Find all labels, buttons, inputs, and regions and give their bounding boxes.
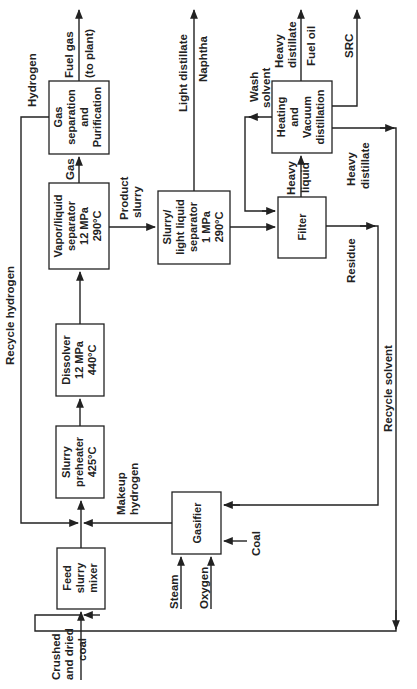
svg-text:Product: Product: [118, 176, 130, 220]
residue-label: Residue: [345, 238, 357, 283]
wash-solvent-label: Wash solvent: [248, 68, 272, 108]
heavy-distillate-top-label: Heavy distillate: [273, 21, 298, 68]
recycle-solvent-label: Recycle solvent: [382, 345, 394, 432]
svg-text:Feed: Feed: [61, 565, 73, 591]
svg-text:Recycle solvent: Recycle solvent: [382, 345, 394, 432]
wash-solvent-line: [245, 117, 275, 211]
svg-text:Hydrogen: Hydrogen: [26, 53, 38, 107]
svg-text:mixer: mixer: [87, 563, 99, 593]
svg-text:distillation: distillation: [314, 89, 326, 144]
svg-text:distillate: distillate: [286, 21, 298, 68]
svg-text:Filter: Filter: [296, 213, 308, 241]
svg-text:separator: separator: [187, 201, 199, 252]
svg-text:and: and: [288, 107, 300, 127]
hydrogen-label: Hydrogen: [26, 53, 38, 107]
svg-text:440°C: 440°C: [86, 345, 98, 376]
svg-text:Fuel gas: Fuel gas: [63, 31, 75, 78]
svg-text:Naphtha: Naphtha: [197, 35, 209, 82]
light-distillate-label: Light distillate: [177, 34, 189, 112]
svg-text:Oxygen: Oxygen: [198, 567, 210, 609]
svg-text:coal: coal: [76, 638, 88, 661]
svg-text:light liquid: light liquid: [174, 199, 186, 255]
svg-text:Vacuum: Vacuum: [301, 96, 313, 138]
distillation-label: Heating and Vacuum distillation: [275, 89, 326, 144]
svg-text:Steam: Steam: [168, 574, 180, 609]
svg-text:and: and: [78, 107, 90, 127]
svg-text:Gas: Gas: [52, 107, 64, 128]
svg-text:12 MPa: 12 MPa: [73, 340, 85, 379]
svg-text:slurry: slurry: [74, 562, 86, 593]
svg-text:Purification: Purification: [91, 86, 103, 147]
svg-text:290°C: 290°C: [213, 212, 225, 243]
svg-text:Wash: Wash: [248, 72, 260, 102]
svg-text:liquid: liquid: [299, 162, 311, 193]
gasifier-coal-label: Coal: [250, 531, 262, 556]
makeup-hydrogen-label: Makeup hydrogen: [115, 463, 140, 515]
svg-text:Slurry/: Slurry/: [161, 210, 173, 245]
coal-feed-label: Crushed and dried coal: [50, 628, 88, 680]
svg-text:Gas: Gas: [64, 158, 76, 180]
svg-text:290°C: 290°C: [91, 211, 103, 242]
svg-text:Heavy: Heavy: [285, 161, 297, 195]
heavy-distillate-side-label: Heavy distillate: [345, 142, 371, 189]
naphtha-label: Naphtha: [197, 35, 209, 82]
svg-text:SRC: SRC: [343, 34, 355, 58]
feed-slurry-mixer-label: Feed slurry mixer: [61, 562, 99, 593]
src-label: SRC: [343, 34, 355, 58]
gas-label: Gas: [64, 158, 76, 180]
svg-text:1 MPa: 1 MPa: [200, 210, 212, 243]
svg-text:Slurry: Slurry: [60, 445, 72, 478]
svg-text:Coal: Coal: [250, 531, 262, 556]
svg-text:Vapor/liquid: Vapor/liquid: [52, 195, 64, 258]
svg-text:hydrogen: hydrogen: [128, 463, 140, 515]
svg-text:Gasifier: Gasifier: [191, 502, 203, 544]
svg-text:Residue: Residue: [345, 238, 357, 283]
oxygen-label: Oxygen: [198, 567, 210, 609]
svg-text:Makeup: Makeup: [115, 472, 127, 515]
svg-text:solvent: solvent: [260, 68, 272, 108]
svg-text:Recycle hydrogen: Recycle hydrogen: [4, 266, 16, 365]
heavy-liquid-label: Heavy liquid: [285, 161, 311, 195]
process-flow-diagram: Feed slurry mixer Slurry preheater 425°C…: [0, 0, 417, 689]
svg-text:425°C: 425°C: [86, 447, 98, 478]
svg-text:Light distillate: Light distillate: [177, 34, 189, 112]
svg-text:slurry: slurry: [131, 185, 143, 218]
fuel-oil-label: Fuel oil: [305, 26, 317, 66]
svg-text:Heavy: Heavy: [273, 34, 285, 68]
svg-text:distillate: distillate: [359, 142, 371, 189]
product-slurry-label: Product slurry: [118, 176, 143, 220]
recycle-hydrogen-label: Recycle hydrogen: [4, 266, 16, 365]
svg-text:and dried: and dried: [63, 628, 75, 680]
svg-text:Heavy: Heavy: [345, 152, 357, 186]
svg-text:preheater: preheater: [73, 436, 85, 487]
svg-text:Dissolver: Dissolver: [60, 335, 72, 385]
gasifier-label: Gasifier: [191, 502, 203, 544]
svg-text:separator: separator: [65, 200, 77, 251]
svg-text:Fuel oil: Fuel oil: [305, 26, 317, 66]
svg-text:12 MPa: 12 MPa: [78, 206, 90, 245]
svg-text:separation: separation: [65, 89, 77, 145]
svg-text:(to plant): (to plant): [83, 29, 95, 78]
svg-text:Crushed: Crushed: [50, 633, 62, 680]
svg-text:Heating: Heating: [275, 97, 287, 137]
steam-label: Steam: [168, 574, 180, 609]
filter-label: Filter: [296, 213, 308, 241]
